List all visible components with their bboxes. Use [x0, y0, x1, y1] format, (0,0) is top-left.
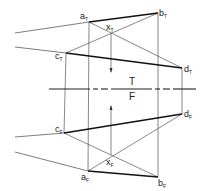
label-d-front: dF: [184, 109, 192, 120]
label-b-front: bF: [158, 178, 166, 189]
label-x-front: xF: [106, 157, 114, 168]
projector-lines: [64, 13, 182, 177]
label-a-top: aT: [80, 11, 88, 22]
label-d-top: dT: [184, 64, 192, 75]
label-T: T: [129, 76, 135, 87]
label-F: F: [129, 91, 135, 102]
labels: T F aT bT xT cT dT dF cF xF aF bF: [55, 8, 192, 189]
label-c-front: cF: [55, 124, 63, 135]
label-x-top: xT: [106, 22, 114, 33]
label-b-top: bT: [159, 8, 167, 19]
diagonal-lines: [64, 13, 182, 177]
heavy-lines: [64, 13, 182, 177]
extension-lines: [15, 22, 89, 171]
projection-diagram: T F aT bT xT cT dT dF cF xF aF bF: [0, 0, 204, 191]
label-a-front: aF: [81, 172, 89, 183]
